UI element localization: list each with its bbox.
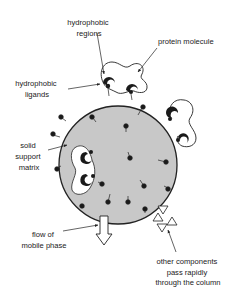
label-protein-molecule: protein molecule <box>158 37 214 46</box>
label-flow-of-mobile-phase: flow of mobile phase <box>21 230 66 250</box>
label-hydrophobic-ligands: hydrophobic ligands <box>15 79 59 99</box>
hic-diagram: hydrophobic regions protein molecule hyd… <box>0 0 235 297</box>
label-solid-support-matrix: solid support matrix <box>15 141 42 172</box>
label-other-components: other components pass rapidly through th… <box>155 257 220 287</box>
protein-molecule-right <box>170 100 196 147</box>
label-hydrophobic-regions: hydrophobic regions <box>67 18 111 38</box>
